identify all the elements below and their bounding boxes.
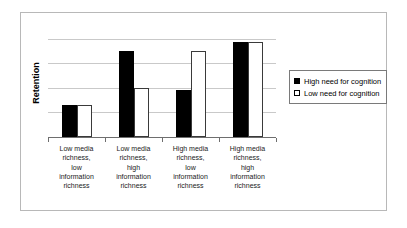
x-axis-tick (48, 138, 49, 142)
bar-low-need[interactable] (191, 51, 206, 137)
open-square-icon (294, 90, 300, 96)
x-axis-label-line: richness, (163, 153, 218, 162)
bar-group (219, 29, 276, 137)
legend-item-label: Low need for cognition (304, 89, 379, 98)
bar-group (105, 29, 162, 137)
filled-square-icon (294, 78, 300, 84)
x-axis-label-line: richness (106, 181, 161, 190)
y-axis-title: Retention (31, 62, 41, 104)
bar-low-need[interactable] (134, 88, 149, 137)
x-axis-label-line: richness (220, 181, 275, 190)
x-axis-label-line: Low media (106, 144, 161, 153)
bar-high-need[interactable] (62, 105, 77, 137)
chart-legend: High need for cognitionLow need for cogn… (289, 70, 387, 104)
x-axis-label-line: richness, (220, 153, 275, 162)
x-axis-label-line: Low media (49, 144, 104, 153)
x-axis-label-line: information (163, 172, 218, 181)
bar-low-need[interactable] (77, 105, 92, 137)
bar-high-need[interactable] (119, 51, 134, 137)
bar-group (162, 29, 219, 137)
bars-container (48, 29, 276, 137)
legend-item[interactable]: Low need for cognition (294, 87, 381, 99)
plot-area (48, 29, 276, 137)
x-axis-label: Low mediarichness,lowinformationrichness (48, 144, 105, 190)
x-axis-label-line: richness, (106, 153, 161, 162)
x-axis-label-line: information (49, 172, 104, 181)
x-axis-label-line: low (49, 163, 104, 172)
x-axis-label-line: high (106, 163, 161, 172)
x-axis-tick (219, 138, 220, 142)
x-axis-label: High mediarichness,highinformationrichne… (219, 144, 276, 190)
y-axis-title-container: Retention (27, 29, 45, 137)
x-axis-label-line: High media (163, 144, 218, 153)
legend-item-label: High need for cognition (304, 77, 381, 86)
x-axis-label-line: High media (220, 144, 275, 153)
bar-high-need[interactable] (233, 42, 248, 137)
x-axis-tick (276, 138, 277, 142)
x-axis-label-line: information (106, 172, 161, 181)
x-axis-labels: Low mediarichness,lowinformationrichness… (48, 144, 276, 190)
x-axis-label-line: richness (49, 181, 104, 190)
bar-high-need[interactable] (176, 90, 191, 137)
x-axis-label-line: richness, (49, 153, 104, 162)
x-axis-label: High mediarichness,lowinformationrichnes… (162, 144, 219, 190)
bar-low-need[interactable] (248, 42, 263, 137)
x-axis-label-line: high (220, 163, 275, 172)
x-axis-label-line: low (163, 163, 218, 172)
x-axis-line (48, 137, 276, 142)
x-axis-tick (105, 138, 106, 142)
legend-item[interactable]: High need for cognition (294, 75, 381, 87)
x-axis-label-line: information (220, 172, 275, 181)
chart-figure: Retention Low mediarichness,lowinformati… (20, 12, 387, 211)
x-axis-label-line: richness (163, 181, 218, 190)
x-axis-tick (162, 138, 163, 142)
bar-group (48, 29, 105, 137)
x-axis-label: Low mediarichness,highinformationrichnes… (105, 144, 162, 190)
